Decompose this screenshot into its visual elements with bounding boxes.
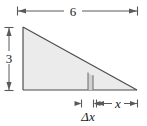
dimension-height-label: 3 [6,51,13,66]
dimension-delta-x-label: Δx [80,109,95,124]
dimension-x-right-arrow-icon [130,101,137,106]
dimension-height-top-arrow-icon [6,28,11,36]
dimension-base-right-arrow-icon [129,8,137,13]
triangle-shape [23,27,137,90]
dimension-base-label: 6 [70,4,77,19]
dimension-x-label: x [114,96,121,111]
dimension-delta-x-left-arrow-icon [75,101,82,106]
dimension-height-bottom-arrow-icon [6,82,11,90]
dimension-height-3: 3 [5,28,14,91]
triangle-figure: 6 3 [0,0,147,126]
delta-x-strip-fill [88,73,93,90]
dimension-x: x [97,96,138,111]
triangle-diagram-canvas: 6 3 [0,0,147,126]
dimension-base-6: 6 [18,4,138,19]
dimension-base-left-arrow-icon [18,8,26,13]
